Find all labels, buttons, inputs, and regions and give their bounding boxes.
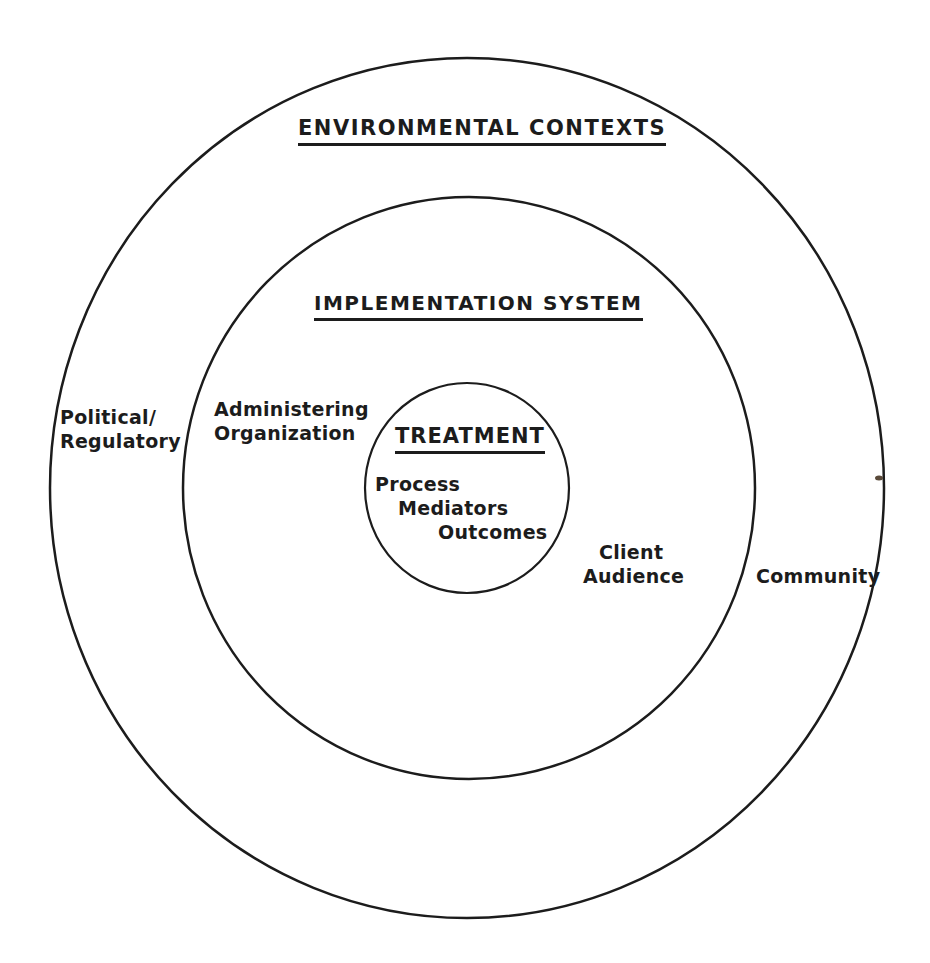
treatment-heading: TREATMENT [395,424,545,454]
administering-label-line: Administering [214,397,369,421]
outer-circle-environmental-contexts [50,58,884,918]
regulatory-label-line: Regulatory [60,429,181,453]
political-regulatory-label: Political/ Regulatory [60,405,181,453]
organization-label-line: Organization [214,421,369,445]
implementation-system-heading: IMPLEMENTATION SYSTEM [314,291,643,321]
audience-label: Audience [583,564,684,588]
process-label: Process [375,472,460,496]
political-label-line: Political/ [60,405,181,429]
outcomes-label: Outcomes [438,520,547,544]
ink-blot-mark [875,476,883,481]
client-label: Client [599,540,663,564]
community-label: Community [756,564,880,588]
middle-circle-implementation-system [183,197,755,779]
environmental-contexts-heading: ENVIRONMENTAL CONTEXTS [298,116,666,146]
mediators-label: Mediators [398,496,508,520]
administering-organization-label: Administering Organization [214,397,369,445]
